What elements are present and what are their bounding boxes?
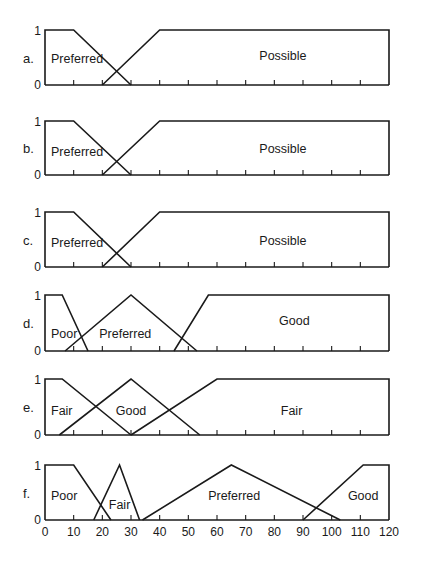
x-tick-label: 70 (239, 525, 253, 539)
membership-function-poor (45, 295, 88, 351)
y-tick-label: 1 (34, 115, 41, 129)
series-label: Preferred (51, 236, 103, 250)
y-tick-label: 1 (34, 459, 41, 473)
series-label: Preferred (99, 327, 151, 341)
series-label: Good (116, 404, 147, 418)
y-tick-label: 0 (34, 513, 41, 527)
series-label: Possible (259, 142, 306, 156)
series-label: Poor (51, 327, 77, 341)
y-tick-label: 1 (34, 24, 41, 38)
x-tick-label: 60 (210, 525, 224, 539)
series-label: Fair (109, 498, 131, 512)
series-label: Possible (259, 234, 306, 248)
x-tick-label: 50 (182, 525, 196, 539)
series-label: Good (279, 314, 310, 328)
y-tick-label: 0 (34, 78, 41, 92)
panel-label: b. (23, 141, 34, 156)
chart-panel-c: c.01PreferredPossible (23, 206, 389, 274)
panel-label: d. (23, 316, 34, 331)
membership-function-possible (102, 30, 389, 85)
fuzzy-membership-chart: a.01PreferredPossibleb.01PreferredPossib… (0, 0, 422, 568)
x-tick-label: 10 (67, 525, 81, 539)
series-label: Preferred (51, 52, 103, 66)
x-tick-label: 30 (124, 525, 138, 539)
panel-label: c. (23, 233, 33, 248)
x-tick-label: 90 (296, 525, 310, 539)
membership-function-possible (102, 212, 389, 267)
x-tick-label: 110 (351, 525, 370, 539)
membership-function-possible (102, 121, 389, 175)
panel-label: f. (23, 486, 30, 501)
y-tick-label: 1 (34, 373, 41, 387)
panel-label: e. (23, 400, 34, 415)
x-tick-label: 80 (268, 525, 282, 539)
chart-panel-f: f.01PoorFairPreferredGood010203040506070… (23, 459, 399, 539)
y-tick-label: 0 (34, 168, 41, 182)
series-label: Fair (51, 404, 73, 418)
chart-panel-e: e.01FairGoodFair (23, 373, 389, 442)
series-label: Poor (51, 489, 77, 503)
series-label: Fair (281, 404, 303, 418)
x-tick-label: 120 (379, 525, 399, 539)
chart-panel-b: b.01PreferredPossible (23, 115, 389, 182)
panel-label: a. (23, 51, 34, 66)
membership-function-fair (131, 379, 389, 435)
x-tick-label: 20 (96, 525, 110, 539)
y-tick-label: 1 (34, 289, 41, 303)
membership-function-fair (94, 465, 140, 520)
y-tick-label: 0 (34, 428, 41, 442)
y-tick-label: 0 (34, 260, 41, 274)
y-tick-label: 1 (34, 206, 41, 220)
chart-panel-d: d.01PoorPreferredGood (23, 289, 389, 358)
series-label: Preferred (51, 145, 103, 159)
y-tick-label: 0 (34, 344, 41, 358)
x-tick-label: 0 (42, 525, 49, 539)
x-tick-label: 40 (153, 525, 167, 539)
chart-panel-a: a.01PreferredPossible (23, 24, 389, 92)
series-label: Preferred (208, 489, 260, 503)
series-label: Good (348, 489, 379, 503)
series-label: Possible (259, 49, 306, 63)
x-tick-label: 100 (322, 525, 342, 539)
